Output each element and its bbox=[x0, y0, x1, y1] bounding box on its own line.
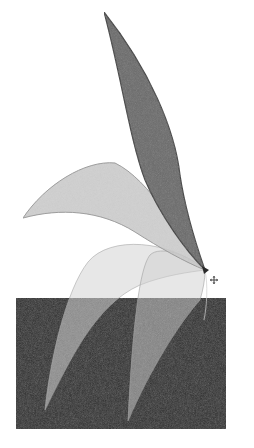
move-cursor-icon bbox=[210, 276, 218, 284]
dark-rectangle[interactable] bbox=[16, 298, 226, 429]
illustration-canvas bbox=[0, 0, 254, 448]
